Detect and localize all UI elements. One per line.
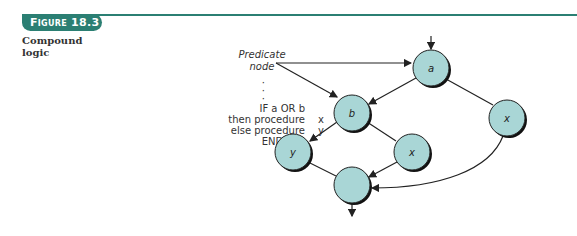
- node-y: y: [275, 134, 313, 172]
- node-x-right: x: [489, 100, 527, 138]
- flow-graph: Predicate node a b x y x: [0, 0, 577, 236]
- predicate-annotation: node: [250, 61, 275, 72]
- svg-text:y: y: [289, 147, 297, 158]
- svg-text:x: x: [408, 147, 415, 158]
- node-x-mid: x: [394, 134, 432, 172]
- predicate-annotation: Predicate: [238, 49, 285, 60]
- svg-text:x: x: [503, 113, 510, 124]
- node-a: a: [413, 50, 451, 88]
- node-join: [334, 167, 372, 205]
- node-b: b: [334, 95, 372, 133]
- predicate-pointer: [276, 63, 337, 97]
- svg-text:a: a: [428, 63, 434, 74]
- svg-text:b: b: [349, 108, 355, 119]
